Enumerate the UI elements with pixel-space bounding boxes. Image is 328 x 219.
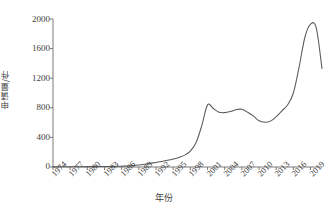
x-tick-label: 2004 bbox=[222, 160, 241, 179]
x-tick-label: 1998 bbox=[187, 160, 206, 179]
x-tick-label: 1980 bbox=[84, 160, 103, 179]
x-tick-label: 1992 bbox=[153, 160, 172, 179]
x-tick-label: 2019 bbox=[308, 160, 327, 179]
x-axis-tick-labels: 1974197719801983198619891992199519982001… bbox=[0, 0, 328, 219]
chart-figure: 申请量/件 2000 1600 1200 800 400 0 197419771… bbox=[0, 0, 328, 219]
x-tick-label: 1983 bbox=[102, 160, 121, 179]
x-tick-label: 2010 bbox=[256, 160, 275, 179]
x-tick-label: 1974 bbox=[50, 160, 69, 179]
x-axis-title: 年份 bbox=[0, 191, 328, 204]
x-tick-label: 1977 bbox=[67, 160, 86, 179]
x-tick-label: 1986 bbox=[119, 160, 138, 179]
x-tick-label: 2016 bbox=[290, 160, 309, 179]
x-tick-label: 2007 bbox=[239, 160, 258, 179]
x-tick-label: 1995 bbox=[170, 160, 189, 179]
x-tick-label: 1989 bbox=[136, 160, 155, 179]
x-tick-label: 2001 bbox=[205, 160, 224, 179]
x-tick-label: 2013 bbox=[273, 160, 292, 179]
